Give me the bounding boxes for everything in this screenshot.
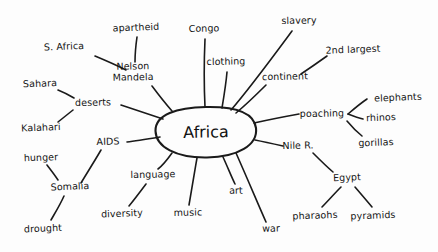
- edge-poaching-gorillas: [347, 121, 362, 136]
- node-deserts: deserts: [75, 97, 111, 108]
- node-aids: AIDS: [96, 136, 119, 147]
- node-nile-river: Nile R.: [282, 140, 313, 151]
- node-pharaohs: pharaohs: [292, 210, 338, 222]
- edge-center-art: [223, 157, 235, 184]
- node-nelson-mandela-line2: Mandela: [112, 72, 153, 83]
- node-elephants: elephants: [374, 92, 422, 104]
- edge-deserts-sahara: [58, 90, 74, 98]
- edge-center-deserts: [121, 105, 163, 119]
- edge-center-poaching: [254, 114, 299, 123]
- edge-center-congo: [204, 39, 205, 107]
- edge-aids-somalia: [81, 150, 101, 183]
- node-war: war: [262, 224, 280, 235]
- edge-center-music: [189, 158, 197, 205]
- edge-somalia-drought: [51, 196, 64, 220]
- edge-poaching-elephants: [348, 99, 367, 114]
- node-nelson-mandela: Nelson Mandela: [112, 61, 153, 83]
- node-art: art: [229, 186, 243, 197]
- node-kalahari: Kalahari: [21, 122, 61, 134]
- node-pyramids: pyramids: [350, 210, 395, 222]
- edge-center-nile: [255, 140, 283, 146]
- edge-poaching-rhinos: [348, 114, 363, 119]
- node-gorillas: gorillas: [358, 137, 394, 149]
- mind-map-canvas: Africa Nelson Mandela Congo clothing sla…: [0, 0, 438, 252]
- node-apartheid: apartheid: [112, 22, 159, 34]
- edge-center-nelson-mandela: [152, 86, 172, 111]
- edge-center-language: [158, 153, 172, 169]
- node-drought: drought: [24, 223, 62, 235]
- node-s-africa: S. Africa: [44, 41, 84, 53]
- center-node-label: Africa: [183, 122, 229, 142]
- node-diversity: diversity: [101, 208, 143, 220]
- edge-center-aids: [127, 137, 160, 142]
- node-continent: continent: [262, 71, 308, 83]
- edge-egypt-pharaohs: [322, 187, 341, 207]
- edge-center-clothing: [222, 72, 227, 108]
- node-congo: Congo: [188, 23, 219, 34]
- node-rhinos: rhinos: [366, 112, 396, 124]
- node-language: language: [130, 169, 175, 180]
- node-hunger: hunger: [24, 152, 59, 164]
- node-somalia: Somalia: [50, 181, 89, 193]
- node-2nd-largest: 2nd largest: [325, 44, 380, 57]
- node-poaching: poaching: [300, 108, 345, 119]
- edge-language-diversity: [129, 184, 146, 206]
- edge-somalia-hunger: [47, 165, 58, 180]
- node-egypt: Egypt: [333, 172, 361, 184]
- node-music: music: [174, 207, 203, 218]
- edge-nelson-mandela-apartheid: [135, 37, 137, 62]
- node-slavery: slavery: [281, 15, 316, 26]
- edge-egypt-pyramids: [355, 187, 372, 207]
- edge-nile-egypt: [313, 153, 333, 172]
- node-clothing: clothing: [206, 56, 245, 67]
- node-sahara: Sahara: [23, 78, 57, 90]
